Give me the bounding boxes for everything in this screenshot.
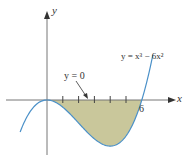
line-label: y = 0: [64, 70, 85, 81]
curve-label: y = x³ − 6x²: [121, 51, 164, 61]
x-axis-arrow-icon: [168, 97, 176, 103]
annotation-arrow: [76, 81, 86, 96]
annotation-arrowhead-icon: [83, 93, 88, 99]
y-axis-label: y: [52, 4, 57, 16]
tick-label-6: 6: [139, 103, 144, 114]
y-axis-arrow-icon: [44, 11, 50, 19]
x-axis-label: x: [177, 92, 182, 104]
chart-canvas: [0, 0, 187, 161]
